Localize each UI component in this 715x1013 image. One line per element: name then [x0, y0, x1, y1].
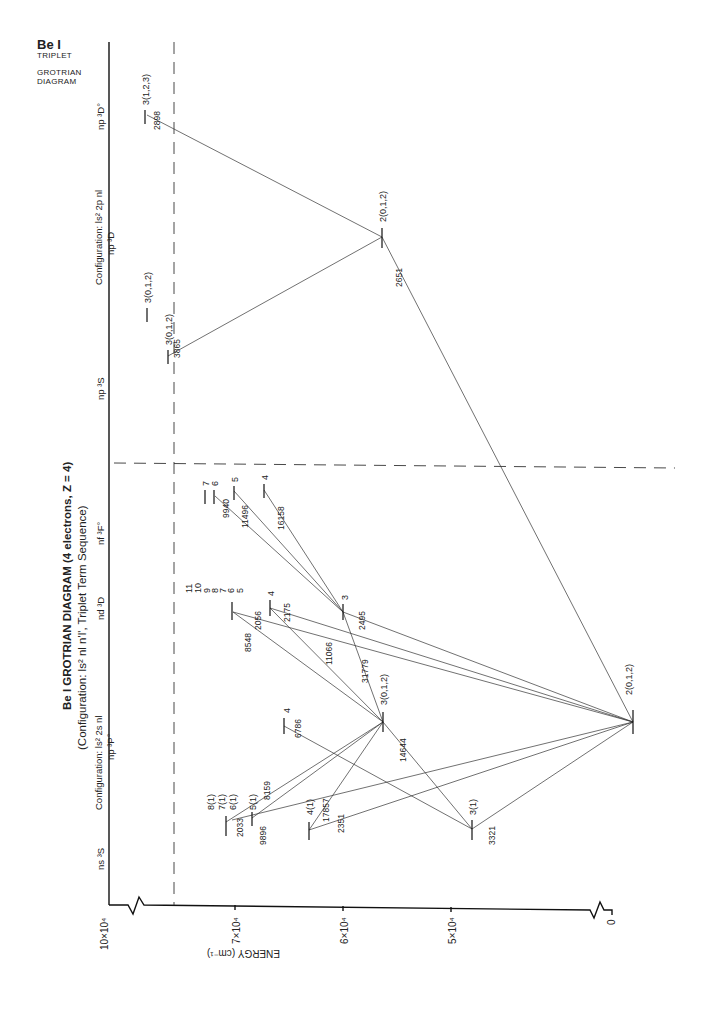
level-nd3D-3: 3	[340, 595, 350, 600]
tick-label-0: 0	[606, 919, 617, 925]
wl-3865: 3865	[172, 339, 182, 358]
wl-11066: 11066	[324, 642, 334, 665]
column-np3Po: np ³P°	[105, 733, 116, 760]
wl-17857: 17857	[321, 798, 331, 822]
wl-16158: 16158	[276, 506, 286, 530]
wl-9940: 9940	[221, 499, 231, 518]
level-nd3D-11: 11	[184, 584, 194, 593]
column-np3Do: np ³D°	[95, 103, 106, 130]
tick-label-5e4: 5×10⁴	[447, 917, 458, 944]
level-2p2-3P: 2(0,1,2)	[378, 191, 388, 222]
level-2p3Po-2: 2(0,1,2)	[624, 664, 634, 695]
level-nd3D-4: 4	[266, 591, 276, 596]
wl-14644: 14644	[398, 738, 408, 762]
level-ns3S-5: 5(1)	[248, 794, 258, 810]
level-np3Po-4: 4	[282, 708, 292, 713]
wl-3321: 3321	[487, 826, 497, 845]
level-ns3S-6: 6(1)	[228, 794, 238, 810]
level-nd3D-10: 10	[193, 583, 203, 593]
wl-8159: 8159	[262, 781, 272, 800]
wl-2651: 2651	[394, 268, 404, 287]
column-nd3D: nd ³D	[95, 597, 106, 620]
config-2s-label: Configuration: ls² 2s nl	[93, 715, 104, 810]
column-np3S: np ³S	[95, 377, 106, 400]
wl-2033: 2033	[235, 818, 245, 837]
diagram-subtitle: (Configuration: ls² nl n'l', Triplet Ter…	[76, 505, 88, 750]
level-nf3Fo-6: 6	[210, 481, 220, 486]
level-nd3D-9: 9	[202, 588, 212, 593]
level-np3Do-3: 3(1,2,3)	[141, 74, 151, 105]
level-nd3D-5: 5	[235, 588, 245, 593]
tick-label-10e4: 10×10⁴	[99, 918, 110, 950]
axis-label-energy: ENERGY (cm⁻¹)	[207, 948, 280, 959]
column-nf3Fo: nf ³F°	[95, 521, 106, 545]
level-ns3S-8: 8(1)	[206, 794, 216, 810]
level-np3Po-3: 3(0,1,2)	[379, 674, 389, 705]
diagram-title: Be I GROTRIAN DIAGRAM (4 electrons, Z = …	[61, 462, 73, 710]
tick-label-7e4: 7×10⁴	[231, 917, 242, 944]
transition-lines	[147, 115, 633, 830]
column-np3D: np ³D	[105, 232, 116, 255]
wl-2056: 2056	[253, 611, 263, 630]
wl-2175: 2175	[282, 603, 292, 622]
config-2p-label: Configuration: ls² 2p nl	[93, 190, 104, 285]
wl-11496: 11496	[240, 505, 250, 528]
level-ns3S-3: 3(1)	[468, 799, 478, 815]
wl-2495: 2495	[357, 611, 367, 630]
level-nf3Fo-4: 4	[260, 475, 270, 480]
config-separator-dashed-line	[114, 463, 675, 468]
grotrian-diagram: 10×10⁴ 7×10⁴ 6×10⁴ 5×10⁴ 0 ENERGY (cm⁻¹)…	[0, 0, 715, 1013]
energy-axis	[109, 897, 612, 918]
level-np3D-3: 3(0,1,2)	[143, 272, 153, 303]
wl-8548: 8548	[243, 633, 253, 652]
energy-levels	[145, 110, 633, 840]
wl-6786: 6786	[293, 719, 303, 738]
wl-2898: 2898	[152, 111, 162, 130]
level-nf3Fo-7: 7	[201, 481, 211, 486]
column-ns3S: ns ³S	[95, 848, 106, 870]
level-ns3S-4: 4(1)	[305, 799, 315, 815]
level-nf3Fo-5: 5	[230, 477, 240, 482]
tick-label-6e4: 6×10⁴	[339, 917, 350, 944]
wl-9896: 9896	[258, 826, 268, 845]
wl-31779: 31779	[360, 659, 370, 683]
level-ns3S-7: 7(1)	[217, 794, 227, 810]
wl-2351: 2351	[336, 814, 346, 833]
